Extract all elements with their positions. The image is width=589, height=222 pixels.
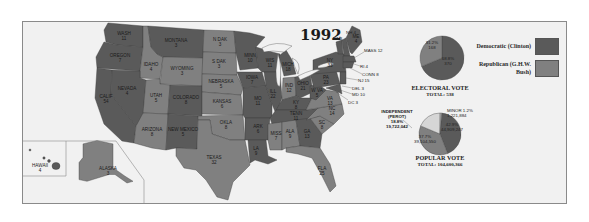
state-mass xyxy=(343,56,356,62)
state-electoral-votes: 22 xyxy=(270,94,276,99)
state-electoral-votes: 32 xyxy=(211,160,217,165)
state-electoral-votes: 8 xyxy=(185,100,188,105)
state-electoral-votes: 11 xyxy=(294,116,299,121)
state-nj xyxy=(340,72,346,84)
electoral-dem-label: 68.8% 370 xyxy=(438,56,458,66)
state-electoral-votes: 8 xyxy=(225,125,228,130)
independent-label: INDEPENDENT (PEROT) 18.8% 19,722,042 xyxy=(378,109,416,129)
state-hawaii xyxy=(52,163,60,170)
state-conn-ri xyxy=(343,62,354,68)
state-alaska xyxy=(79,141,133,184)
state-electoral-votes: 11 xyxy=(256,101,261,106)
hawaii-island xyxy=(29,149,31,151)
state-fla xyxy=(286,146,336,192)
independent-votes: 19,722,042 xyxy=(378,124,416,129)
electoral-vote-title: ELECTORAL VOTE xyxy=(395,85,485,92)
legend-label-democratic: Democratic (Clinton) xyxy=(477,43,531,51)
state-electoral-votes: 3 xyxy=(219,42,222,47)
callout-ri: RI 4 xyxy=(360,64,368,69)
popular-vote-total: TOTAL: 104,600,366 xyxy=(393,162,487,168)
state-electoral-votes: 9 xyxy=(289,134,292,139)
state-electoral-votes: 4 xyxy=(150,67,153,72)
state-electoral-votes: 12 xyxy=(286,88,292,93)
state-electoral-votes: 25 xyxy=(319,171,325,176)
legend-swatch-republican xyxy=(535,60,559,77)
electoral-rep-label: 31.2% 168 xyxy=(422,40,442,50)
state-electoral-votes: 3 xyxy=(175,43,178,48)
hawaii-island xyxy=(43,157,45,159)
state-electoral-votes: 6 xyxy=(257,129,260,134)
state-electoral-votes: 11 xyxy=(122,36,127,41)
state-electoral-votes: 7 xyxy=(275,136,278,141)
popular-dem-label: 42.9% 44,909,247 xyxy=(437,122,467,132)
state-nebraska xyxy=(202,74,243,95)
hawaii-island xyxy=(48,160,51,163)
callout-nj: NJ 15 xyxy=(358,78,369,83)
state-electoral-votes: 23 xyxy=(323,80,329,85)
callout-conn: CONN 8 xyxy=(362,72,379,77)
callout-nh: NH 4 xyxy=(346,30,356,35)
electoral-vote-caption: ELECTORAL VOTE TOTAL: 538 xyxy=(395,85,485,97)
callout-dc: DC 3 xyxy=(348,100,358,105)
us-election-map: WASH11OREGON7CALIF54IDAHO4NEVADA4MONTANA… xyxy=(0,0,589,222)
electoral-rep-votes: 168 xyxy=(422,45,442,50)
electoral-vote-total: TOTAL: 538 xyxy=(395,92,485,98)
state-electoral-votes: 21 xyxy=(300,86,306,91)
popular-rep-votes: 39,104,550 xyxy=(410,139,440,144)
state-electoral-votes: 8 xyxy=(295,105,298,110)
state-electoral-votes: 11 xyxy=(268,63,273,68)
state-electoral-votes: 13 xyxy=(304,134,310,139)
legend-republican: Republican (G.H.W. Bush) xyxy=(471,60,559,77)
state-electoral-votes: 18 xyxy=(285,67,291,72)
state-electoral-votes: 14 xyxy=(329,111,335,116)
popular-vote-title: POPULAR VOTE xyxy=(393,155,487,162)
callout-md: MD 10 xyxy=(352,92,365,97)
state-electoral-votes: 6 xyxy=(221,104,224,109)
callout-mass: MASS 12 xyxy=(364,48,383,53)
state-electoral-votes: 7 xyxy=(119,58,122,63)
state-electoral-votes: 7 xyxy=(251,80,254,85)
legend-democratic: Democratic (Clinton) xyxy=(477,38,559,55)
callout-del: DEL 3 xyxy=(352,86,364,91)
state-electoral-votes: 10 xyxy=(247,58,253,63)
callout-vt: VT 3 xyxy=(333,36,342,41)
state-electoral-votes: 5 xyxy=(220,84,223,89)
state-electoral-votes: 9 xyxy=(255,151,258,156)
electoral-dem-votes: 370 xyxy=(438,61,458,66)
state-electoral-votes: 33 xyxy=(327,63,333,68)
popular-vote-caption: POPULAR VOTE TOTAL: 104,600,366 xyxy=(393,155,487,167)
independent-name: INDEPENDENT (PEROT) xyxy=(378,109,416,119)
state-electoral-votes: 3 xyxy=(218,64,221,69)
state-electoral-votes: 4 xyxy=(39,168,42,173)
state-electoral-votes: 54 xyxy=(103,99,109,104)
state-electoral-votes: 8 xyxy=(151,132,154,137)
map-title: 1992 xyxy=(300,26,342,44)
state-electoral-votes: 5 xyxy=(155,98,158,103)
state-electoral-votes: 4 xyxy=(355,39,358,44)
minor-label: MINOR 1.2% 1,221,884 xyxy=(447,108,477,118)
state-electoral-votes: 8 xyxy=(321,125,324,130)
minor-votes: 1,221,884 xyxy=(447,113,477,118)
state-electoral-votes: 5 xyxy=(182,132,185,137)
state-electoral-votes: 3 xyxy=(181,71,184,76)
state-electoral-votes: 5 xyxy=(316,93,319,98)
legend-swatch-democratic xyxy=(535,38,559,55)
popular-rep-label: 37.7% 39,104,550 xyxy=(410,134,440,144)
state-electoral-votes: 4 xyxy=(126,91,129,96)
state-electoral-votes: 13 xyxy=(327,101,333,106)
legend-label-republican: Republican (G.H.W. Bush) xyxy=(471,61,531,76)
state-electoral-votes: 3 xyxy=(107,171,110,176)
popular-dem-votes: 44,909,247 xyxy=(437,127,467,132)
